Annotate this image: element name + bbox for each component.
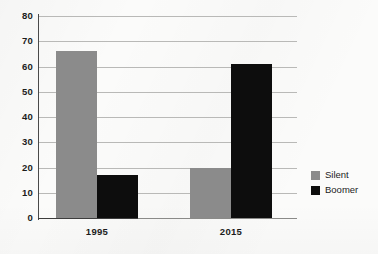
bar-chart: 01020304050607080 19952015 SilentBoomer <box>0 0 378 254</box>
y-tick-label-70: 70 <box>5 36 33 46</box>
bar-silent-1995 <box>56 51 97 218</box>
legend-label-silent: Silent <box>325 170 349 180</box>
bar-silent-2015 <box>190 168 231 219</box>
legend-swatch-silent-icon <box>311 171 320 180</box>
x-tick-label-1995: 1995 <box>67 226 127 237</box>
y-tick-label-50: 50 <box>5 87 33 97</box>
x-tick-label-2015: 2015 <box>201 226 261 237</box>
y-tick-label-0: 0 <box>5 213 33 223</box>
legend-item-silent[interactable]: Silent <box>311 168 375 182</box>
y-axis-tick-labels: 01020304050607080 <box>0 0 33 254</box>
y-tick-label-10: 10 <box>5 188 33 198</box>
chart-legend: SilentBoomer <box>311 168 375 198</box>
bar-boomer-2015 <box>231 64 272 218</box>
y-tick-label-30: 30 <box>5 137 33 147</box>
y-tick-label-80: 80 <box>5 11 33 21</box>
bar-boomer-1995 <box>97 175 138 218</box>
x-axis-baseline-emphasis <box>38 218 138 219</box>
y-tick-label-20: 20 <box>5 163 33 173</box>
legend-item-boomer[interactable]: Boomer <box>311 183 375 197</box>
y-tick-label-40: 40 <box>5 112 33 122</box>
legend-label-boomer: Boomer <box>325 185 358 195</box>
legend-swatch-boomer-icon <box>311 186 320 195</box>
bar-series-layer <box>38 16 297 218</box>
y-tick-label-60: 60 <box>5 62 33 72</box>
